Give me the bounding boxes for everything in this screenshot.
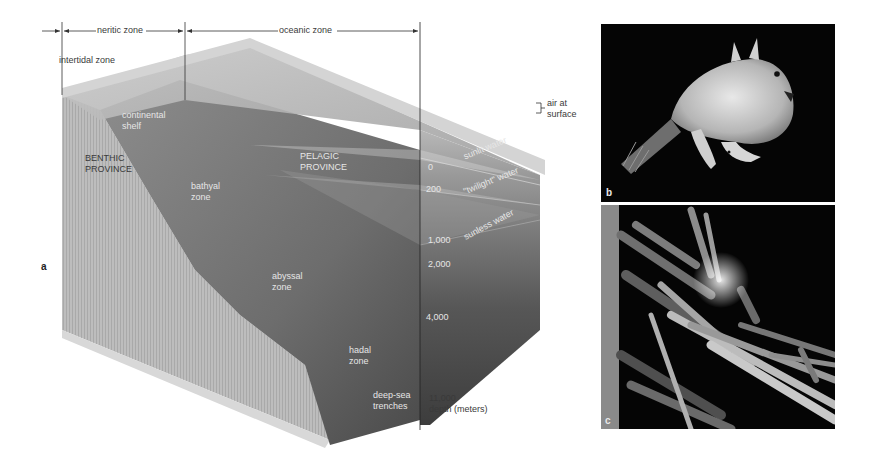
panel-c-tube-worms-photo: c (601, 205, 835, 429)
water-column-face (420, 130, 540, 425)
depth-tick-1000: 1,000 (428, 235, 451, 246)
hadal-zone-label: hadal zone (349, 345, 371, 367)
panel-letter-c: c (605, 415, 611, 426)
benthic-province-label: BENTHIC PROVINCE (85, 153, 132, 175)
depth-tick-0: 0 (428, 162, 433, 173)
tube-worms-illustration (601, 205, 835, 429)
depth-unit-label: depth (meters) (429, 404, 488, 415)
deep-sea-trenches-label: deep-sea trenches (373, 390, 411, 412)
depth-tick-2000: 2,000 (428, 259, 451, 270)
panel-letter-a: a (41, 261, 47, 272)
panel-b-anglerfish-photo: b (601, 24, 835, 202)
panel-letter-b: b (606, 187, 612, 198)
abyssal-zone-label: abyssal zone (272, 271, 303, 293)
depth-tick-200: 200 (426, 184, 441, 195)
anglerfish-illustration (601, 24, 835, 202)
neritic-zone-label: neritic zone (97, 25, 143, 36)
bathyal-zone-label: bathyal zone (191, 181, 220, 203)
air-at-surface-label: air at surface (547, 98, 577, 120)
continental-shelf-label: continental shelf (122, 110, 166, 132)
depth-tick-4000: 4,000 (426, 312, 449, 323)
oceanic-zone-label: oceanic zone (279, 25, 332, 36)
pelagic-province-label: PELAGIC PROVINCE (300, 151, 347, 173)
depth-tick-11000: 11,000 (429, 393, 456, 404)
intertidal-zone-label: intertidal zone (59, 55, 115, 66)
